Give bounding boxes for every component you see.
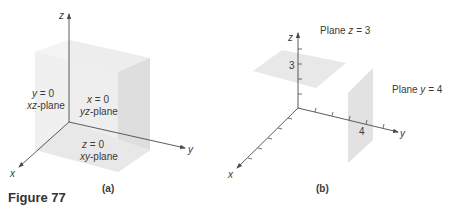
xy-plane-equation: z = 0 (81, 139, 104, 150)
plane-y-4-label: Plane y = 4 (392, 84, 443, 95)
panel-a-label: (a) (102, 183, 114, 194)
x-ticks (248, 118, 292, 159)
panel-a: z y x y = 0 xz-plane x = 0 yz-plane z = … (9, 10, 194, 194)
plane-y-4 (348, 68, 373, 163)
y-tick-label-4: 4 (359, 126, 365, 137)
x-axis-b (237, 108, 298, 168)
yz-plane-name: yz-plane (79, 106, 118, 117)
x-axis-label-b: x (227, 169, 234, 180)
yz-plane-equation: x = 0 (86, 94, 109, 105)
z-axis-label-b: z (287, 32, 293, 43)
y-axis-label: y (187, 144, 194, 155)
figure-caption: Figure 77 (8, 190, 66, 205)
panel-b-label: (b) (316, 183, 329, 194)
figure-canvas: z y x y = 0 xz-plane x = 0 yz-plane z = … (0, 0, 453, 215)
xz-plane-equation: y = 0 (31, 88, 54, 99)
xy-plane-name: xy-plane (79, 151, 118, 162)
x-axis-label: x (9, 168, 16, 179)
y-axis-label-b: y (399, 128, 406, 139)
z-axis-label: z (58, 10, 64, 21)
plane-z-3-label: Plane z = 3 (320, 25, 371, 36)
panel-b: z y x 3 4 Plane z = 3 Plane y = 4 (b) (227, 25, 443, 194)
xz-plane-name: xz-plane (26, 100, 65, 111)
z-tick-label-3: 3 (289, 60, 295, 71)
plane-z-3 (253, 50, 346, 88)
